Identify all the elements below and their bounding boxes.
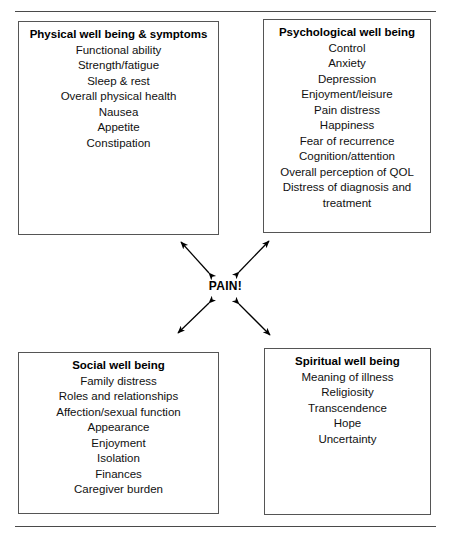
list-item: Affection/sexual function bbox=[23, 405, 214, 421]
list-item: Overall physical health bbox=[23, 89, 214, 105]
center-label-pain: PAIN! bbox=[0, 279, 451, 293]
quadrant-list-psychological: Control Anxiety Depression Enjoyment/lei… bbox=[264, 41, 430, 212]
qol-pain-diagram: Physical well being & symptoms Functiona… bbox=[0, 0, 451, 538]
list-item: Enjoyment/leisure bbox=[268, 87, 426, 103]
list-item: Roles and relationships bbox=[23, 389, 214, 405]
list-item: Caregiver burden bbox=[23, 482, 214, 498]
list-item: Functional ability bbox=[23, 43, 214, 59]
list-item: Appetite bbox=[23, 120, 214, 136]
list-item: Nausea bbox=[23, 105, 214, 121]
list-item: Uncertainty bbox=[269, 432, 426, 448]
list-item: Enjoyment bbox=[23, 436, 214, 452]
list-item: Anxiety bbox=[268, 56, 426, 72]
quadrant-list-spiritual: Meaning of illness Religiosity Transcend… bbox=[265, 370, 430, 448]
list-item: Family distress bbox=[23, 374, 214, 390]
list-item: Transcendence bbox=[269, 401, 426, 417]
quadrant-list-physical: Functional ability Strength/fatigue Slee… bbox=[19, 43, 218, 152]
quadrant-title-social: Social well being bbox=[25, 359, 212, 373]
quadrant-title-physical: Physical well being & symptoms bbox=[25, 28, 212, 42]
list-item: Appearance bbox=[23, 420, 214, 436]
list-item: Control bbox=[268, 41, 426, 57]
list-item: Depression bbox=[268, 72, 426, 88]
list-item: Religiosity bbox=[269, 385, 426, 401]
list-item: Strength/fatigue bbox=[23, 58, 214, 74]
list-item: Pain distress bbox=[268, 103, 426, 119]
arrow-pain-to-spiritual bbox=[239, 304, 270, 335]
quadrant-title-psychological: Psychological well being bbox=[270, 26, 424, 40]
arrow-pain-to-psychological bbox=[239, 241, 269, 272]
list-item: Overall perception of QOL bbox=[268, 165, 426, 181]
list-item: Hope bbox=[269, 416, 426, 432]
bottom-divider-rule bbox=[15, 526, 436, 527]
list-item: Distress of diagnosis and treatment bbox=[268, 180, 426, 211]
quadrant-box-social: Social well being Family distress Roles … bbox=[18, 352, 219, 514]
arrow-pain-to-physical bbox=[181, 242, 209, 273]
list-item: Meaning of illness bbox=[269, 370, 426, 386]
list-item: Isolation bbox=[23, 451, 214, 467]
quadrant-box-psychological: Psychological well being Control Anxiety… bbox=[263, 19, 431, 233]
list-item: Happiness bbox=[268, 118, 426, 134]
list-item: Sleep & rest bbox=[23, 74, 214, 90]
arrow-pain-to-social bbox=[178, 303, 209, 333]
quadrant-box-spiritual: Spiritual well being Meaning of illness … bbox=[264, 348, 431, 515]
quadrant-title-spiritual: Spiritual well being bbox=[271, 355, 424, 369]
list-item: Cognition/attention bbox=[268, 149, 426, 165]
quadrant-list-social: Family distress Roles and relationships … bbox=[19, 374, 218, 498]
quadrant-box-physical: Physical well being & symptoms Functiona… bbox=[18, 21, 219, 235]
list-item: Fear of recurrence bbox=[268, 134, 426, 150]
list-item: Finances bbox=[23, 467, 214, 483]
top-divider-rule bbox=[15, 11, 436, 12]
list-item: Constipation bbox=[23, 136, 214, 152]
